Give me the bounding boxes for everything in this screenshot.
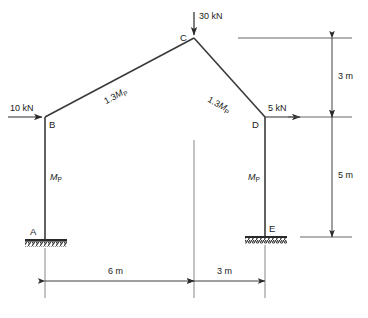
capacity-subscript-DE: P bbox=[256, 176, 260, 183]
support-E-fixed bbox=[245, 237, 287, 244]
member-BC bbox=[45, 38, 194, 117]
node-label-C: C bbox=[180, 33, 187, 43]
dimension-label-3m-rise: 3 m bbox=[338, 72, 353, 81]
capacity-symbol-AB: M bbox=[50, 172, 58, 182]
capacity-subscript-AB: P bbox=[58, 176, 62, 183]
member-capacity-label-DE: MP bbox=[248, 173, 260, 182]
node-label-E: E bbox=[269, 224, 275, 234]
capacity-symbol-DE: M bbox=[248, 172, 256, 182]
frame-members bbox=[45, 38, 265, 240]
frame-geometry-svg bbox=[0, 0, 368, 318]
load-label-30kN: 30 kN bbox=[199, 12, 223, 21]
member-capacity-label-AB: MP bbox=[50, 173, 62, 182]
support-A-hatching bbox=[25, 241, 67, 247]
support-E-hatching bbox=[245, 238, 287, 244]
dimension-label-3m-span: 3 m bbox=[217, 267, 232, 276]
node-label-A: A bbox=[30, 227, 36, 237]
support-A-fixed bbox=[25, 240, 67, 247]
dimension-label-6m: 6 m bbox=[108, 267, 123, 276]
node-label-D: D bbox=[252, 120, 259, 130]
dimension-label-5m-height: 5 m bbox=[338, 171, 353, 180]
structural-frame-diagram: B C D A E 10 kN 30 kN 5 kN 1.3MP 1.3MP M… bbox=[0, 0, 368, 318]
node-label-B: B bbox=[49, 120, 55, 130]
load-arrows bbox=[8, 12, 300, 117]
extension-lines bbox=[45, 38, 352, 298]
load-label-5kN: 5 kN bbox=[268, 104, 287, 113]
load-label-10kN: 10 kN bbox=[10, 104, 34, 113]
